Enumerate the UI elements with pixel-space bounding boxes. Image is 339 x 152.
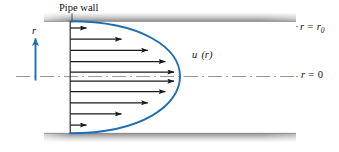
label-r-equals-r0-operator: =: [304, 21, 317, 32]
label-velocity-u-of-r: u (r): [192, 50, 212, 61]
label-r-equals-zero-operator: =: [305, 69, 318, 80]
label-radial-axis-r: r: [32, 26, 36, 37]
label-r-equals-r0: r = r0: [300, 22, 325, 35]
velocity-profile-curve: [70, 21, 180, 133]
pipe-wall-top: [44, 13, 296, 22]
label-r-equals-zero: r = 0: [301, 70, 324, 81]
label-r-equals-zero-value: 0: [318, 69, 324, 80]
label-r-equals-r0-subscript: 0: [321, 26, 325, 35]
pipe-wall-label: Pipe wall: [59, 3, 98, 14]
label-velocity-argument: (r): [201, 49, 212, 60]
pipe-wall-bottom: [44, 133, 296, 142]
figure-canvas: [0, 0, 339, 152]
pipe-flow-velocity-profile-figure: Pipe wall r = r0 r = 0 u (r) r: [0, 0, 339, 152]
